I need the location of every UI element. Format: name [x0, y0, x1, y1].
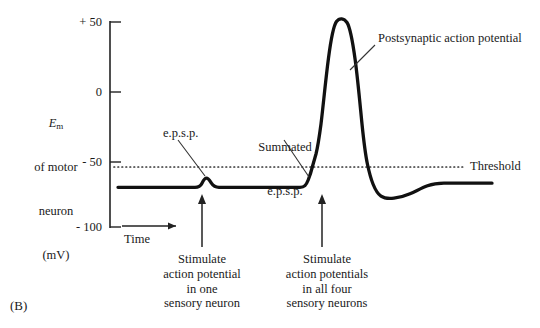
- x-axis-label: Time: [124, 232, 150, 247]
- summated-epsp-line-2: e.p.s.p.: [248, 184, 322, 199]
- stimulus-1-arrowhead: [198, 194, 206, 204]
- epsp-1-leader-line: [178, 140, 205, 176]
- y-axis-title: Em of motor neuron (mV): [16, 86, 96, 293]
- y-axis-symbol: Em: [16, 116, 96, 131]
- y-axis-title-line-1: of motor: [16, 160, 96, 175]
- epsp-label: e.p.s.p.: [163, 126, 198, 141]
- y-tick-label-plus50: + 50: [56, 15, 102, 30]
- panel-label: (B): [10, 298, 27, 313]
- summated-epsp-line-1: Summated: [248, 140, 322, 155]
- stimulus-2-note: Stimulate action potentials in all four …: [262, 252, 392, 311]
- stimulus-1-note: Stimulate action potential in one sensor…: [143, 252, 261, 311]
- y-axis-title-line-2: neuron: [16, 204, 96, 219]
- summated-epsp-label: Summated e.p.s.p.: [248, 110, 322, 228]
- figure-panel-b: + 50 0 - 50 - 100 Em of motor neuron (mV…: [0, 0, 540, 328]
- threshold-label: Threshold: [470, 159, 521, 174]
- y-axis-title-line-3: (mV): [16, 248, 96, 263]
- postsynaptic-action-potential-label: Postsynaptic action potential: [378, 31, 522, 46]
- time-axis-arrowhead: [168, 223, 176, 230]
